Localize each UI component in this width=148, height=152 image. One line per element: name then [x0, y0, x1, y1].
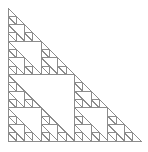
fractal-figure-canvas [0, 0, 148, 152]
sierpinski-triangle-svg [0, 0, 148, 152]
